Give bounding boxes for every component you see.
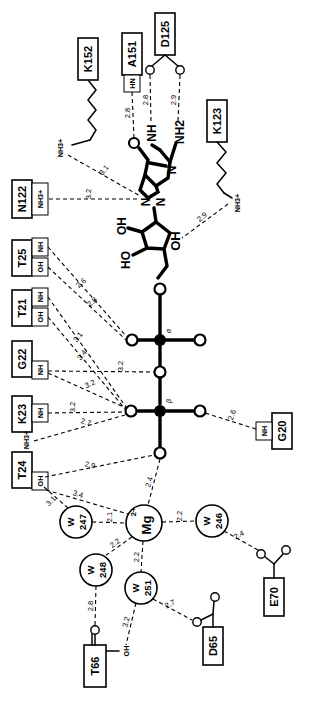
water-label-line2: 246: [213, 513, 224, 529]
distance-label: 2.8: [141, 95, 150, 106]
oxygen-atom: [282, 546, 290, 554]
water-W248[interactable]: W 248: [80, 554, 112, 586]
group-label-oh: OH: [122, 646, 131, 657]
group-label-oh: OH: [36, 262, 45, 273]
residue-A151[interactable]: A151 HN: [122, 33, 142, 92]
oxygen-atom: [257, 550, 265, 558]
magnesium-ion[interactable]: Mg 2+: [126, 505, 162, 541]
phosphorus-alpha-atom: [154, 334, 166, 346]
residue-label: G20: [276, 421, 288, 442]
residue-label: N122: [16, 186, 28, 212]
distance-label: 3.2: [68, 402, 77, 413]
oxygen-atom: [176, 66, 184, 74]
ribose-oh-label-1: OH: [115, 217, 129, 235]
residue-label: E70: [268, 587, 280, 607]
phosphorus-beta-atom: [154, 405, 166, 417]
water-label-line2: 248: [97, 562, 108, 578]
ligand-ring-n-label: N: [139, 198, 153, 207]
distance-label: 2.9: [169, 95, 178, 106]
phosphate-oxygen: [126, 406, 137, 417]
group-label-hn: HN: [128, 78, 137, 88]
distance-label: 2.2: [132, 552, 141, 563]
water-label-line1: W: [130, 583, 141, 592]
oxygen-atom: [211, 593, 219, 601]
bridging-oxygen: [155, 367, 166, 378]
water-W251[interactable]: W 251: [125, 572, 157, 604]
distance-label: 2.1: [105, 512, 114, 523]
residue-label: D125: [159, 21, 171, 47]
oxygen-atom: [91, 626, 99, 634]
residue-label: T66: [89, 657, 101, 676]
glycosidic-bond: [154, 208, 156, 222]
phosphate-oxygen: [195, 406, 206, 417]
ligand-ring-n-label: N: [154, 198, 168, 207]
residue-label: T24: [16, 460, 28, 480]
ribose-oh-label-2: HO: [119, 251, 133, 269]
distance-label: 2.8: [86, 601, 95, 612]
water-label-line1: W: [85, 565, 96, 574]
distance-label: 3.2: [116, 361, 125, 372]
phosphate-oxygen: [195, 335, 206, 346]
water-W247[interactable]: W 247: [60, 506, 92, 538]
group-label-nh: NH: [36, 408, 45, 418]
water-label-line2: 251: [142, 579, 153, 596]
group-label-nh: NH: [36, 292, 45, 302]
residue-label: K152: [82, 46, 94, 72]
water-label-line2: 247: [77, 514, 88, 530]
residue-label: D65: [207, 636, 219, 656]
group-label-nh3: NH3+: [56, 139, 65, 158]
water-label-line1: W: [201, 516, 212, 525]
ester-oxygen-atom: [155, 284, 166, 295]
residue-label: K23: [16, 404, 28, 424]
phosphate-oxygen: [127, 335, 138, 346]
group-label-nh3: NH3+: [36, 190, 45, 209]
phosphate-oxygen: [155, 448, 166, 459]
residue-label: G22: [16, 349, 28, 370]
ligand-oxygen-atom: [129, 138, 139, 148]
residue-N122[interactable]: N122 NH3+: [12, 180, 48, 218]
distance-label: 2.8: [123, 108, 132, 119]
ligand-ring-n-label: N: [165, 166, 179, 175]
group-label-nh: NH: [260, 426, 269, 436]
ligand-nh-label: NH: [145, 124, 159, 141]
carboxylate-bond-2: [213, 601, 214, 614]
group-label-oh: OH: [36, 476, 45, 487]
distance-label: 2.2: [175, 511, 184, 522]
phosphorus-beta-greek: β: [165, 399, 173, 404]
diagram-canvas: .bond { stroke:#000; stroke-width:2.4; f…: [0, 0, 309, 702]
residue-label: T21: [16, 299, 28, 318]
ligand-interaction-diagram: .bond { stroke:#000; stroke-width:2.4; f…: [0, 0, 309, 702]
group-label-nh3: NH3+: [233, 194, 242, 213]
oxygen-atom: [146, 66, 154, 74]
residue-label: A151: [126, 41, 138, 67]
group-label-nh3: NH3+: [22, 431, 31, 450]
metal-charge-label: 2+: [129, 507, 138, 516]
group-label-nh: NH: [36, 365, 45, 375]
ribose-ring-oxygen: OH: [168, 231, 183, 251]
residue-label: T25: [16, 249, 28, 268]
oxygen-atom: [193, 618, 201, 626]
water-label-line1: W: [65, 517, 76, 526]
residue-label: K123: [211, 108, 223, 134]
metal-label: Mg: [139, 516, 154, 535]
distance-label: 3.2: [84, 189, 93, 200]
group-label-oh: OH: [36, 312, 45, 323]
group-label-nh: NH: [36, 242, 45, 252]
ligand-nh2-label: NH2: [173, 120, 187, 144]
water-W246[interactable]: W 246: [196, 505, 228, 537]
